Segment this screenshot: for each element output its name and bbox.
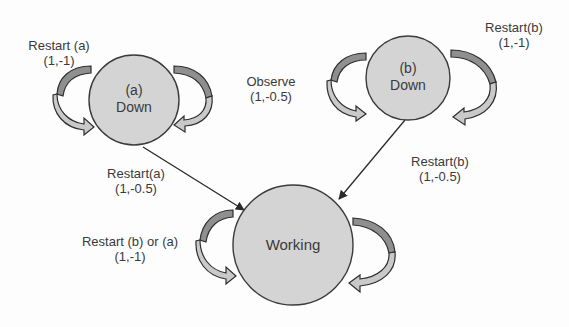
edge-action: Restart(b) <box>400 154 480 169</box>
edge-value: (1,-1) <box>470 35 558 50</box>
edge-label-restart-b-or-a-loop: Restart (b) or (a) (1,-1) <box>68 234 192 264</box>
node-label-line: (b) <box>378 60 438 77</box>
node-label-down-a: (a) Down <box>104 82 164 116</box>
loop-arrow-icon <box>349 218 395 292</box>
edge-down-b-to-working <box>339 120 405 199</box>
edge-label-restart-b-loop: Restart(b) (1,-1) <box>470 20 558 50</box>
loop-arrow-icon <box>327 53 366 121</box>
edge-action: Observe <box>236 74 306 89</box>
edge-label-restart-a-to-working: Restart(a) (1,-0.5) <box>96 166 176 196</box>
edge-label-observe: Observe (1,-0.5) <box>236 74 306 104</box>
edge-value: (1,-1) <box>68 249 192 264</box>
node-label-down-b: (b) Down <box>378 60 438 94</box>
node-label-line: (a) <box>104 82 164 99</box>
edge-value: (1,-0.5) <box>400 169 480 184</box>
edge-action: Restart (b) or (a) <box>68 234 192 249</box>
edge-value: (1,-0.5) <box>96 181 176 196</box>
edge-action: Restart(a) <box>96 166 176 181</box>
loop-arrow-icon <box>53 66 94 135</box>
edge-label-restart-b-to-working: Restart(b) (1,-0.5) <box>400 154 480 184</box>
edge-value: (1,-1) <box>12 53 106 68</box>
edge-label-restart-a-loop: Restart (a) (1,-1) <box>12 38 106 68</box>
node-label-working: Working <box>243 236 343 253</box>
edge-action: Restart(b) <box>470 20 558 35</box>
state-diagram: (a) Down (b) Down Working Restart (a) (1… <box>0 0 569 327</box>
loop-arrow-icon <box>451 50 496 125</box>
edge-value: (1,-0.5) <box>236 89 306 104</box>
edge-action: Restart (a) <box>12 38 106 53</box>
loop-arrow-icon <box>174 66 212 132</box>
loop-arrow-icon <box>196 210 236 284</box>
node-label-line: Working <box>243 236 343 253</box>
node-label-line: Down <box>378 77 438 94</box>
node-label-line: Down <box>104 99 164 116</box>
